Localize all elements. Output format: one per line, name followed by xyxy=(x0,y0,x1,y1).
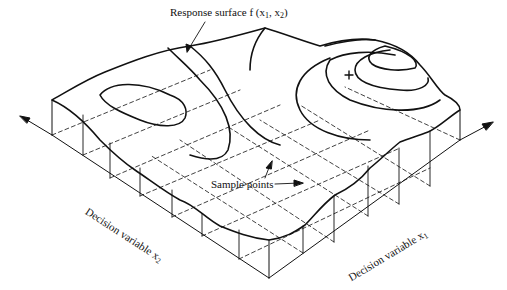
surface-outline xyxy=(52,28,460,240)
arrowhead-x1-icon xyxy=(482,122,493,130)
response-surface-label: Response surface f (x1, x2) xyxy=(170,6,288,20)
contour-lines xyxy=(100,28,440,159)
base-edge-right xyxy=(269,140,460,278)
response-surface-diagram xyxy=(0,0,507,290)
sample-arrowhead-right-icon xyxy=(294,180,303,186)
sample-points-label: Sample points xyxy=(211,178,274,190)
arrowhead-x2-icon xyxy=(20,116,30,123)
maximum-plus-icon xyxy=(345,71,353,79)
sample-arrowhead-up-icon xyxy=(266,161,272,169)
title-arrowhead-icon xyxy=(186,44,191,52)
